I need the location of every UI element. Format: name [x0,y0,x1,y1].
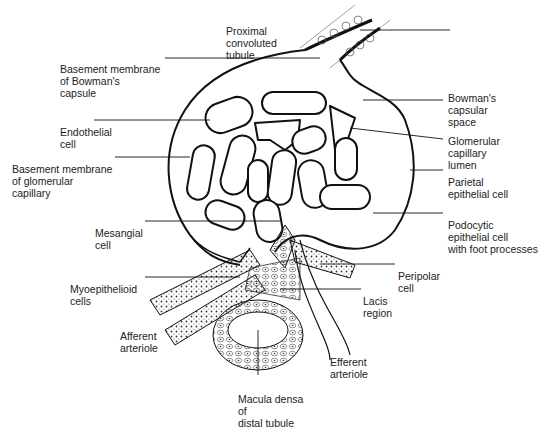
label-mesangial-cell: Mesangialcell [95,215,143,263]
label-bm-glomerular: Basement membraneof glomerularcapillary [12,151,112,211]
label-efferent-arteriole: Efferentarteriole [330,344,368,392]
label-lacis-region: Lacisregion [363,283,392,331]
vascular-pole [150,225,355,370]
label-bm-bowman: Basement membraneof Bowman'scapsule [60,51,160,111]
label-macula-densa: Macula densaofdistal tubule [238,381,303,431]
label-parietal-cell: Parietalepithelial cell [448,164,508,212]
label-peripolar-cell: Peripolarcell [398,258,440,306]
label-afferent-arteriole: Afferentarteriole [120,318,158,366]
label-proximal-tubule: Proximalconvolutedtubule [226,13,277,73]
label-myoepithelioid-cells: Myoepithelioidcells [70,271,137,319]
label-podocyte: Podocyticepithelial cellwith foot proces… [448,207,538,267]
proximal-tubule [300,5,390,68]
